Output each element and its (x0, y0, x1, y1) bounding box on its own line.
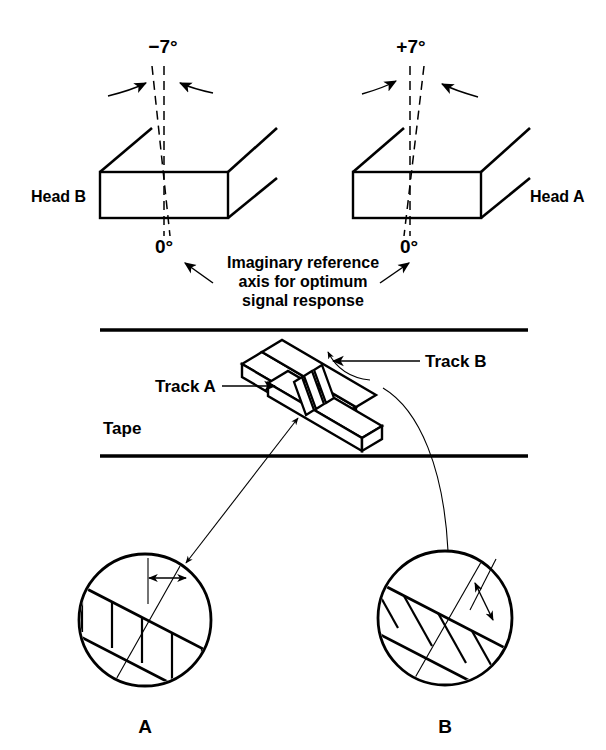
azimuth-diagram-svg: −7° 0° Head B +7° 0° Head A Ima (0, 0, 606, 750)
right-head-assembly: +7° 0° Head A (353, 36, 585, 257)
connector-to-circle-b (383, 388, 448, 551)
caption-line-1: Imaginary reference (227, 254, 379, 271)
head-b-label: Head B (31, 188, 86, 205)
caption-line-2: axis for optimum (239, 273, 368, 290)
circle-b-gap-5 (506, 648, 534, 698)
right-tilted-axis (404, 66, 424, 236)
right-head-box (353, 128, 530, 218)
circle-b-label: B (438, 716, 452, 737)
left-arrow-inner (180, 83, 213, 93)
caption-arrow-left (185, 263, 213, 283)
tape-panel: Tape Track B (100, 330, 528, 456)
reference-axis-caption: Imaginary reference axis for optimum sig… (185, 254, 409, 309)
left-head-assembly: −7° 0° Head B (31, 36, 277, 257)
left-head-box (100, 128, 277, 218)
left-arrow-outer (108, 83, 146, 96)
left-zero-label: 0° (155, 236, 173, 257)
left-tilted-axis (152, 66, 170, 236)
caption-line-3: signal response (242, 292, 364, 309)
right-zero-label: 0° (400, 236, 418, 257)
right-angle-label: +7° (396, 36, 425, 57)
caption-arrow-right (380, 263, 409, 283)
tape-label: Tape (103, 419, 141, 438)
connector-to-circle-a (186, 418, 298, 563)
right-arrow-inner (362, 81, 396, 94)
circle-a-detail: A (50, 552, 240, 737)
left-angle-label: −7° (148, 36, 177, 57)
circle-b-detail: B (350, 550, 540, 737)
head-stack (242, 340, 382, 451)
head-a-label: Head A (530, 188, 585, 205)
figure-root: −7° 0° Head B +7° 0° Head A Ima (0, 0, 606, 750)
track-a-label: Track A (155, 377, 216, 396)
circle-a-label: A (138, 716, 152, 737)
track-b-label: Track B (425, 352, 486, 371)
right-arrow-outer (442, 84, 478, 97)
